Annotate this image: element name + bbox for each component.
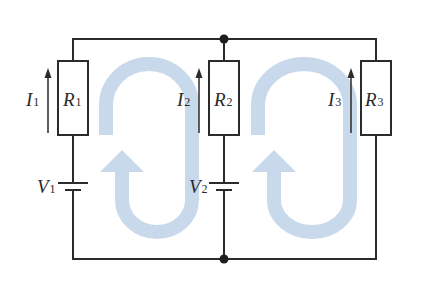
label-v1-subscript: 1 bbox=[50, 182, 56, 196]
battery-v2 bbox=[209, 183, 239, 190]
label-v1: V1 bbox=[37, 177, 56, 196]
label-r3-symbol: R bbox=[365, 89, 377, 110]
label-i3-symbol: I bbox=[328, 89, 334, 110]
label-r2-subscript: 2 bbox=[227, 95, 233, 109]
label-r1: R1 bbox=[63, 90, 82, 109]
current-arrow-i1 bbox=[45, 68, 52, 133]
label-i1-symbol: I bbox=[26, 89, 32, 110]
label-r1-symbol: R bbox=[63, 89, 75, 110]
label-i1: I1 bbox=[26, 90, 39, 109]
label-r3: R3 bbox=[365, 90, 384, 109]
label-r2: R2 bbox=[214, 90, 233, 109]
label-r3-subscript: 3 bbox=[378, 95, 384, 109]
label-v2-subscript: 2 bbox=[202, 182, 208, 196]
label-r2-symbol: R bbox=[214, 89, 226, 110]
label-i2: I2 bbox=[177, 90, 190, 109]
junction-top bbox=[220, 35, 229, 44]
label-i1-subscript: 1 bbox=[33, 95, 39, 109]
battery-v1 bbox=[58, 183, 88, 190]
label-v2: V2 bbox=[189, 177, 208, 196]
loop-arrow-2-head bbox=[252, 150, 296, 172]
loop-arrow-1-head bbox=[100, 150, 144, 172]
label-v2-symbol: V bbox=[189, 176, 201, 197]
label-r1-subscript: 1 bbox=[76, 95, 82, 109]
label-i2-subscript: 2 bbox=[184, 95, 190, 109]
label-i2-symbol: I bbox=[177, 89, 183, 110]
junction-bottom bbox=[220, 255, 229, 264]
label-i3-subscript: 3 bbox=[335, 95, 341, 109]
label-v1-symbol: V bbox=[37, 176, 49, 197]
label-i3: I3 bbox=[328, 90, 341, 109]
circuit-diagram bbox=[0, 0, 423, 284]
